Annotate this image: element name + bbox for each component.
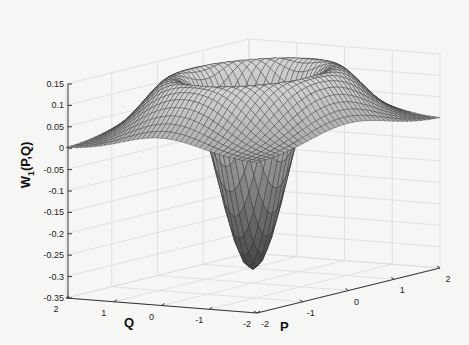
z-tick-label: 0.1 [51, 100, 64, 110]
p-tick-label: 1 [400, 285, 405, 295]
z-tick-label: -0.25 [43, 250, 64, 260]
z-tick-label: -0.2 [48, 229, 64, 239]
z-tick-label: 0.15 [46, 79, 64, 89]
z-axis-label: W1(P,Q) [18, 142, 36, 189]
z-tick-label: -0.15 [43, 207, 64, 217]
q-axis-ticks: 210-1-2 [53, 296, 260, 329]
surface-mesh [66, 58, 440, 270]
z-tick-label: 0.05 [46, 122, 64, 132]
p-axis-label: P [280, 319, 289, 334]
p-tick-label: 2 [445, 274, 450, 284]
p-tick-label: -1 [307, 308, 315, 318]
z-tick-label: -0.05 [43, 165, 64, 175]
q-tick-label: -2 [243, 319, 251, 329]
surface-plot: 0.150.10.050-0.05-0.1-0.15-0.2-0.25-0.3-… [0, 0, 469, 345]
p-tick-label: 0 [354, 297, 359, 307]
q-tick-label: 0 [149, 312, 154, 322]
z-tick-label: -0.1 [48, 186, 64, 196]
q-tick-label: 2 [53, 304, 58, 314]
q-axis-label: Q [124, 315, 134, 330]
z-tick-label: 0 [59, 143, 64, 153]
q-tick-label: 1 [101, 308, 106, 318]
z-tick-label: -0.35 [43, 293, 64, 303]
z-tick-label: -0.3 [48, 272, 64, 282]
q-tick-label: -1 [195, 315, 203, 325]
p-tick-label: -2 [261, 319, 269, 329]
